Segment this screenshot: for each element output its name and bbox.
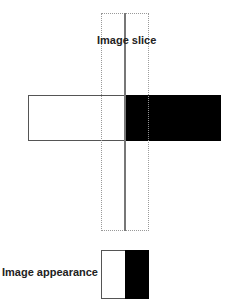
image-slice-label: Image slice	[97, 34, 156, 46]
image-appearance-black-half	[125, 250, 149, 299]
image-appearance-label: Image appearance	[2, 266, 98, 278]
